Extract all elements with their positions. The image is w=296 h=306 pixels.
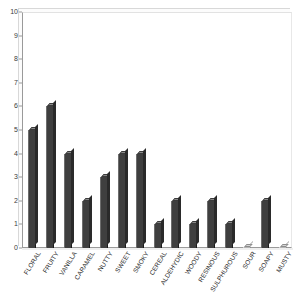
y-axis-tick-label: 7 (14, 79, 18, 87)
y-axis-tick-label: 6 (14, 102, 18, 110)
y-axis-tick-label: 2 (14, 197, 18, 205)
bar[interactable] (154, 224, 162, 248)
bar[interactable] (207, 201, 215, 248)
y-axis-tick-label: 3 (14, 173, 18, 181)
bar[interactable] (171, 201, 179, 248)
bar[interactable] (46, 106, 54, 248)
bar-slot (118, 12, 126, 248)
x-axis-category-label: SOAPY (257, 250, 276, 274)
bar[interactable] (243, 247, 251, 248)
bar-slot (64, 12, 72, 248)
y-axis-tick-mark (19, 224, 22, 225)
y-axis-tick-mark (19, 82, 22, 83)
y-axis-tick-label: 4 (14, 150, 18, 158)
bar-slot (82, 12, 90, 248)
y-axis-tick-mark (19, 177, 22, 178)
y-axis-tick-mark (19, 106, 22, 107)
bar-slot (136, 12, 144, 248)
y-axis-tick-label: 5 (14, 126, 18, 134)
bar-slot (100, 12, 108, 248)
bar[interactable] (279, 247, 287, 248)
bar-slot (243, 12, 251, 248)
y-axis-tick-label: 1 (14, 220, 18, 228)
bar[interactable] (82, 201, 90, 248)
bar[interactable] (64, 154, 72, 248)
y-axis-tick-mark (19, 12, 22, 13)
bar[interactable] (261, 201, 269, 248)
x-axis-category-label: MUSTY (275, 250, 294, 274)
bar-slot (279, 12, 287, 248)
bar-slot (261, 12, 269, 248)
bar-slot (225, 12, 233, 248)
y-axis-tick-mark (19, 130, 22, 131)
bar-chart: 012345678910 FLORALFRUITYVANILLACARAMELN… (0, 0, 296, 306)
bar-slot (207, 12, 215, 248)
y-axis-tick-label: 9 (14, 32, 18, 40)
x-axis-labels: FLORALFRUITYVANILLACARAMELNUTTYSWEETSMOK… (23, 250, 292, 306)
bar[interactable] (225, 224, 233, 248)
y-axis-tick-label: 0 (14, 244, 18, 252)
bars-layer (23, 12, 292, 248)
y-axis-tick-mark (19, 248, 22, 249)
bar-slot (189, 12, 197, 248)
bar[interactable] (189, 224, 197, 248)
bar[interactable] (118, 154, 126, 248)
y-axis-tick-label: 8 (14, 55, 18, 63)
bar[interactable] (136, 154, 144, 248)
y-axis-tick-mark (19, 153, 22, 154)
y-axis-tick-label: 10 (10, 8, 18, 16)
x-axis-category-label: NUTTY (96, 250, 115, 273)
bar[interactable] (28, 130, 36, 248)
bar-slot (46, 12, 54, 248)
bar-slot (154, 12, 162, 248)
x-axis-category-label: FLORAL (22, 250, 43, 276)
y-axis-tick-mark (19, 59, 22, 60)
bar-slot (171, 12, 179, 248)
y-axis-tick-mark (19, 35, 22, 36)
x-axis-category-label: SWEET (113, 250, 132, 274)
x-axis-category-label: SOUR (241, 250, 258, 271)
bar[interactable] (100, 177, 108, 248)
y-axis: 012345678910 (0, 8, 22, 248)
y-axis-tick-mark (19, 200, 22, 201)
bar-slot (28, 12, 36, 248)
